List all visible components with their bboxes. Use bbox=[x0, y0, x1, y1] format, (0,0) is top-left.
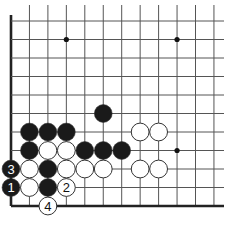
white-stone bbox=[57, 142, 75, 160]
white-stone bbox=[21, 160, 39, 178]
white-stone bbox=[57, 160, 75, 178]
black-stone bbox=[21, 142, 39, 160]
move-number-label: 2 bbox=[63, 180, 70, 195]
white-stone bbox=[150, 123, 168, 141]
white-stone bbox=[94, 160, 112, 178]
move-number-label: 4 bbox=[44, 199, 51, 214]
white-stone bbox=[76, 160, 94, 178]
black-stone bbox=[39, 123, 57, 141]
black-stone bbox=[39, 160, 57, 178]
black-stone bbox=[21, 123, 39, 141]
white-stone bbox=[131, 160, 149, 178]
black-stone bbox=[39, 179, 57, 197]
white-stone bbox=[131, 123, 149, 141]
black-stone bbox=[94, 142, 112, 160]
move-number-label: 3 bbox=[7, 162, 14, 177]
black-stone bbox=[94, 105, 112, 123]
star-point bbox=[174, 37, 179, 42]
white-stone bbox=[21, 179, 39, 197]
black-stone bbox=[113, 142, 131, 160]
black-stone bbox=[76, 142, 94, 160]
move-number-label: 1 bbox=[7, 180, 14, 195]
white-stone bbox=[150, 160, 168, 178]
star-point bbox=[64, 37, 69, 42]
go-board: 3124 bbox=[0, 0, 228, 225]
star-point bbox=[174, 148, 179, 153]
black-stone bbox=[57, 123, 75, 141]
white-stone bbox=[39, 142, 57, 160]
